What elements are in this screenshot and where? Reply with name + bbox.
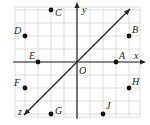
point-B [127,34,132,39]
y-axis-label: y [81,4,87,15]
origin-label: O [79,65,86,76]
line-z-label: z [17,106,22,117]
point-D [23,34,28,39]
point-label-H: H [131,76,140,87]
point-G [49,112,54,117]
point-label-C: C [55,7,62,18]
point-C [49,8,54,13]
point-F [23,86,28,91]
point-E [36,60,41,65]
x-axis-label: x [133,50,139,61]
point-A [114,60,119,65]
point-label-E: E [28,50,35,61]
point-label-J: J [106,100,111,111]
point-label-B: B [132,24,138,35]
point-J [101,112,106,117]
point-label-D: D [13,25,22,36]
point-H [127,86,132,91]
x-axis-arrow-icon [140,60,146,65]
point-label-F: F [13,77,21,88]
point-label-G: G [55,105,62,116]
coordinate-diagram: ABCDEFGHJ x y O z [0,0,150,125]
point-label-A: A [118,50,126,61]
y-axis-arrow-icon [75,2,80,8]
